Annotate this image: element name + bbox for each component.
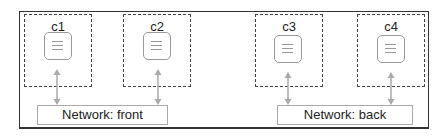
network-back: Network: back [277, 105, 413, 125]
container-icon [44, 32, 72, 60]
double-arrow-icon [153, 69, 163, 105]
container-icon [377, 35, 405, 63]
double-arrow-icon [283, 72, 293, 105]
container-icon [143, 32, 171, 60]
network-front: Network: front [37, 105, 168, 125]
container-icon [274, 35, 302, 63]
host-label: c3 [256, 19, 322, 34]
double-arrow-icon [52, 69, 62, 105]
double-arrow-icon [386, 72, 396, 105]
host-label: c4 [358, 19, 424, 34]
